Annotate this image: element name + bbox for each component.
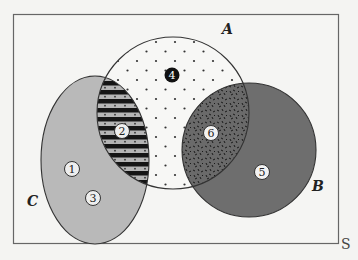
svg-text:6: 6 bbox=[208, 127, 215, 140]
region-4-marker: 4 bbox=[165, 68, 180, 83]
svg-text:1: 1 bbox=[69, 163, 76, 176]
svg-text:2: 2 bbox=[119, 125, 126, 138]
region-2-marker: 2 bbox=[115, 124, 130, 139]
region-3-marker: 3 bbox=[86, 191, 101, 206]
region-1-marker: 1 bbox=[65, 162, 80, 177]
set-b-label: B bbox=[311, 178, 324, 194]
set-a-label: A bbox=[220, 21, 233, 37]
venn-diagram: A B C S 1 2 3 4 5 6 bbox=[0, 0, 358, 260]
set-c-label: C bbox=[27, 193, 38, 209]
svg-text:3: 3 bbox=[90, 192, 97, 205]
region-6-marker: 6 bbox=[204, 126, 219, 141]
svg-text:4: 4 bbox=[169, 69, 176, 82]
svg-text:5: 5 bbox=[259, 166, 266, 179]
region-5-marker: 5 bbox=[255, 165, 270, 180]
universe-label: S bbox=[341, 236, 351, 252]
